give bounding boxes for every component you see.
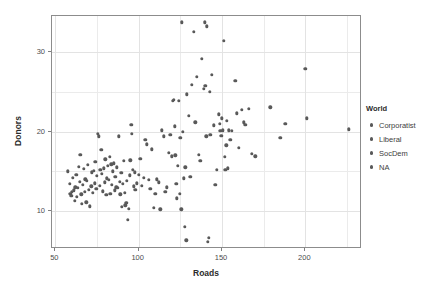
data-point [217, 113, 220, 116]
data-point [190, 83, 193, 86]
data-point [79, 153, 82, 156]
data-point [69, 194, 72, 197]
data-point [100, 172, 103, 175]
legend-key [366, 165, 377, 168]
legend-label: Liberal [379, 135, 402, 144]
data-point [126, 218, 129, 221]
data-point [194, 120, 197, 123]
data-point [147, 178, 150, 181]
data-point [91, 191, 94, 194]
y-tick-label: 30 [25, 47, 45, 56]
data-point [125, 179, 128, 182]
y-tick-mark [48, 210, 51, 211]
legend-dot-icon [370, 151, 373, 154]
data-point [209, 133, 212, 136]
x-tick-label: 150 [215, 253, 228, 262]
y-tick-label: 20 [25, 126, 45, 135]
data-point [197, 153, 200, 156]
data-point [103, 181, 106, 184]
data-point [87, 188, 90, 191]
data-point [240, 108, 243, 111]
data-point [202, 87, 205, 90]
legend-key [366, 137, 377, 140]
data-point [173, 124, 176, 127]
data-point [127, 207, 130, 210]
x-tick-label: 200 [298, 253, 311, 262]
y-tick-mark [48, 131, 51, 132]
y-axis-title: Donors [13, 116, 23, 146]
data-point [108, 155, 111, 158]
data-point [237, 146, 240, 149]
data-point [80, 202, 83, 205]
legend-item-socdem[interactable]: SocDem [366, 146, 427, 160]
data-point [157, 181, 160, 184]
y-tick-mark [48, 51, 51, 52]
data-point [207, 236, 210, 239]
data-point [304, 67, 307, 70]
data-point [183, 225, 186, 228]
data-point [225, 119, 228, 122]
data-point [111, 170, 114, 173]
data-point [244, 123, 247, 126]
data-point [101, 189, 104, 192]
data-point [229, 138, 232, 141]
data-point [114, 175, 117, 178]
data-point [144, 138, 147, 141]
data-point [210, 73, 213, 76]
data-point [66, 170, 69, 173]
data-point [204, 84, 207, 87]
y-tick-label: 10 [25, 205, 45, 214]
x-tick-mark [304, 248, 305, 251]
data-point [116, 186, 119, 189]
legend-item-corporatist[interactable]: Corporatist [366, 118, 427, 132]
data-point [140, 184, 143, 187]
data-point [142, 176, 145, 179]
data-point [192, 30, 195, 33]
data-point [269, 105, 272, 108]
x-tick-mark [138, 248, 139, 251]
data-point [184, 239, 187, 242]
data-point [139, 157, 142, 160]
data-point [206, 240, 209, 243]
data-point [129, 123, 132, 126]
data-point [212, 124, 215, 127]
data-point [117, 135, 120, 138]
data-point [305, 117, 308, 120]
data-point [110, 183, 113, 186]
legend-item-liberal[interactable]: Liberal [366, 132, 427, 146]
data-point [97, 135, 100, 138]
data-point [130, 132, 133, 135]
gridline-horizontal [52, 211, 360, 212]
data-point [134, 188, 137, 191]
data-point [220, 117, 223, 120]
data-point [174, 182, 177, 185]
data-point [104, 193, 107, 196]
x-axis-title: Roads [51, 268, 361, 278]
data-point [179, 136, 182, 139]
data-point [122, 159, 125, 162]
data-point [85, 179, 88, 182]
legend: World CorporatistLiberalSocDemNA [366, 104, 427, 174]
data-point [226, 166, 229, 169]
x-tick-mark [221, 248, 222, 251]
data-point [176, 164, 179, 167]
data-point [204, 135, 207, 138]
data-point [81, 183, 84, 186]
data-point [181, 130, 184, 133]
data-point [119, 171, 122, 174]
gridline-vertical [222, 16, 223, 247]
data-point [169, 133, 172, 136]
gridline-vertical [55, 16, 56, 247]
legend-key [366, 151, 377, 154]
data-point [234, 79, 237, 82]
legend-item-na[interactable]: NA [366, 160, 427, 174]
data-point [208, 90, 211, 93]
data-point [145, 143, 148, 146]
data-point [199, 159, 202, 162]
gridline-horizontal [52, 52, 360, 53]
data-point [137, 173, 140, 176]
data-point [123, 191, 126, 194]
data-point [112, 162, 115, 165]
data-point [254, 155, 257, 158]
data-point [109, 192, 112, 195]
